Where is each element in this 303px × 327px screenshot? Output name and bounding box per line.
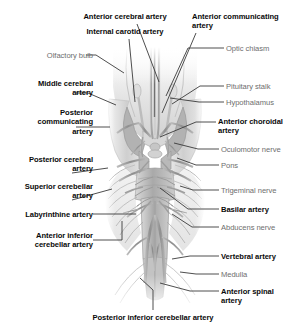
- label-anterior-spinal-artery: Anterior spinal artery: [221, 287, 303, 306]
- label-hypothalamus: Hypothalamus: [226, 98, 303, 107]
- label-abducens-nerve: Abducens nerve: [221, 223, 303, 232]
- label-posterior-cerebral-artery: Posterior cerebral artery: [2, 155, 93, 174]
- label-oculomotor-nerve: Oculomotor nerve: [221, 145, 303, 154]
- label-posterior-inferior-cerebellar-artery: Posterior inferior cerebellar artery: [58, 313, 248, 322]
- label-optic-chiasm: Optic chiasm: [226, 44, 303, 53]
- label-pons: Pons: [221, 161, 303, 170]
- label-labyrinthine-artery: Labyrinthine artery: [2, 210, 93, 219]
- label-vertebral-artery: Vertebral artery: [221, 252, 303, 261]
- label-basilar-artery: Basilar artery: [221, 205, 303, 214]
- anatomy-figure: Anterior cerebral arteryInternal carotid…: [0, 0, 303, 327]
- label-olfactory-bulb: Olfactory bulb: [8, 51, 93, 60]
- label-pituitary-stalk: Pituitary stalk: [226, 82, 303, 91]
- label-anterior-communicating-artery: Anterior communicating artery: [192, 12, 303, 31]
- label-posterior-communicating-artery: Posterior communicating artery: [5, 108, 93, 136]
- label-medulla: Medulla: [221, 270, 303, 279]
- label-anterior-inferior-cerebellar-artery: Anterior inferior cerebellar artery: [2, 231, 93, 250]
- label-middle-cerebral-artery: Middle cerebral artery: [5, 79, 93, 98]
- label-superior-cerebellar-artery: Superior cerebellar artery: [2, 182, 93, 201]
- brain-base-illustration: [105, 47, 205, 312]
- label-anterior-cerebral-artery: Anterior cerebral artery: [62, 12, 188, 21]
- label-internal-carotid-artery: Internal carotid artery: [62, 27, 188, 36]
- label-anterior-choroidal-artery: Anterior choroidal artery: [218, 117, 303, 136]
- label-trigeminal-nerve: Trigeminal nerve: [221, 186, 303, 195]
